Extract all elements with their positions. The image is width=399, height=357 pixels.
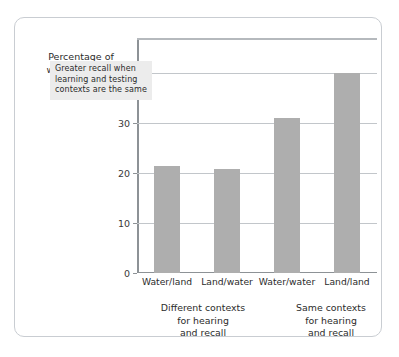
x-axis-label: Water/land	[142, 276, 192, 287]
group-caption-different-contexts: Different contexts for hearing and recal…	[143, 302, 263, 340]
y-tick-label: 30	[118, 118, 130, 129]
x-axis-label: Land/land	[324, 276, 369, 287]
bar	[154, 166, 180, 274]
bar	[274, 118, 300, 273]
y-tick-mark	[133, 273, 137, 274]
plot-area: 40%3020100Water/landLand/waterWater/wate…	[137, 38, 377, 273]
plot-inner: 40%3020100Water/landLand/waterWater/wate…	[137, 38, 377, 273]
plot-top-rule	[137, 38, 377, 40]
y-tick-mark	[133, 223, 137, 224]
y-tick-label: 10	[118, 218, 130, 229]
annotation-callout: Greater recall when learning and testing…	[50, 61, 152, 100]
bar	[334, 73, 360, 273]
y-tick-label: 0	[124, 268, 130, 279]
bar	[214, 169, 240, 273]
y-tick-label: 20	[118, 168, 130, 179]
x-axis-label: Water/water	[259, 276, 315, 287]
y-tick-mark	[133, 173, 137, 174]
chart-figure: Percentage of words recalled 40%3020100W…	[14, 17, 382, 337]
y-tick-mark	[133, 123, 137, 124]
group-caption-same-contexts: Same contexts for hearing and recall	[273, 302, 389, 340]
x-axis-label: Land/water	[201, 276, 253, 287]
